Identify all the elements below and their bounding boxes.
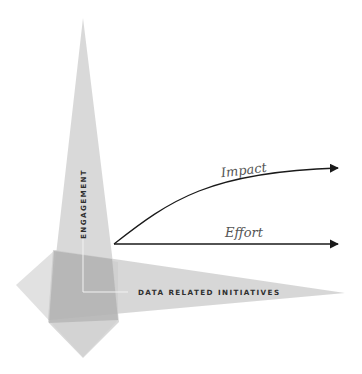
engagement-impact-diagram: Impact Effort ENGAGEMENT DATA RELATED IN… bbox=[0, 0, 362, 374]
data-initiatives-axis-label: DATA RELATED INITIATIVES bbox=[138, 288, 280, 297]
impact-label: Impact bbox=[219, 160, 268, 181]
effort-label: Effort bbox=[224, 225, 264, 240]
engagement-axis-label: ENGAGEMENT bbox=[79, 169, 88, 239]
